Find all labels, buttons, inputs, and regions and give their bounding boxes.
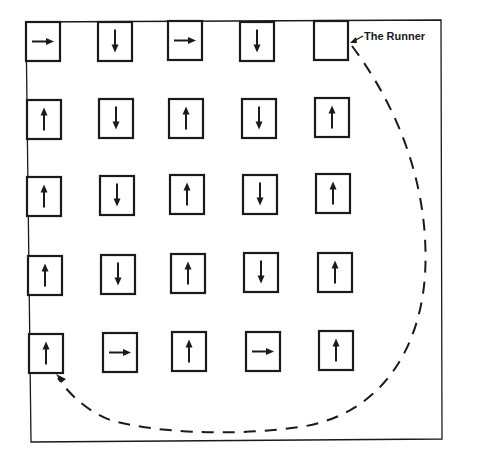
box-r5-c2 bbox=[103, 333, 137, 372]
box-r5-c3 bbox=[172, 332, 206, 371]
box-r4-c1 bbox=[28, 256, 62, 295]
box-r4-c3 bbox=[171, 254, 205, 293]
runner-label-pointer-head-icon bbox=[350, 37, 357, 43]
box-grid bbox=[26, 21, 353, 373]
box-r5-c5 bbox=[319, 331, 353, 370]
box-r3-c4 bbox=[243, 175, 277, 214]
box-r1-c2 bbox=[98, 22, 132, 61]
box-r2-c1 bbox=[27, 100, 61, 139]
box-r3-c1 bbox=[27, 177, 61, 216]
box-r4-c5 bbox=[318, 253, 352, 292]
box-r3-c2 bbox=[100, 176, 134, 215]
box-r3-c3 bbox=[170, 175, 204, 214]
runner-diagram bbox=[0, 0, 481, 465]
outer-frame bbox=[26, 20, 442, 442]
box-r1-c5 bbox=[314, 21, 348, 60]
box-r1-c4 bbox=[240, 22, 274, 61]
box-r2-c3 bbox=[169, 99, 203, 138]
box-r2-c4 bbox=[242, 99, 276, 138]
box-r1-c3 bbox=[168, 21, 202, 60]
box-r4-c4 bbox=[244, 253, 278, 292]
box-r1-c1 bbox=[26, 22, 60, 61]
runner-label: The Runner bbox=[364, 30, 425, 42]
box-r5-c4 bbox=[246, 332, 280, 371]
box-r2-c2 bbox=[99, 99, 133, 138]
box-r2-c5 bbox=[315, 98, 349, 137]
box-r5-c1 bbox=[29, 334, 63, 373]
box-r3-c5 bbox=[316, 174, 350, 213]
box-r4-c2 bbox=[101, 255, 135, 294]
